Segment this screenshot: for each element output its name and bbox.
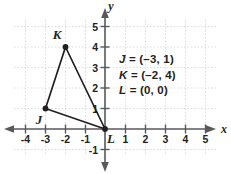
y-tick-label: -1 — [89, 144, 98, 156]
legend-row-j: J = (–3, 1) — [119, 52, 176, 68]
point-j — [43, 106, 49, 112]
x-tick-label: 2 — [143, 133, 149, 145]
y-tick-label: 3 — [92, 62, 98, 74]
coordinate-legend: J = (–3, 1) K = (–2, 4) L = (0, 0) — [119, 52, 176, 99]
x-tick-label: -2 — [61, 133, 70, 145]
x-tick-label: -4 — [21, 133, 30, 145]
x-tick-label: 3 — [163, 133, 169, 145]
figure-canvas: -4 -3 -2 -1 1 2 3 4 5 5 4 3 2 1 -1 x y J — [0, 0, 231, 174]
point-label-l: L — [106, 131, 115, 146]
legend-eq-j: = (–3, 1) — [129, 53, 174, 65]
axis-arrowheads — [4, 8, 216, 172]
legend-row-k: K = (–2, 4) — [119, 68, 176, 84]
coordinate-plane-graph: -4 -3 -2 -1 1 2 3 4 5 5 4 3 2 1 -1 x y J — [0, 0, 231, 174]
x-tick-label: -3 — [41, 133, 50, 145]
legend-var-l: L — [119, 84, 126, 96]
legend-eq-l: = (0, 0) — [130, 84, 168, 96]
point-k — [63, 44, 69, 50]
point-label-j: J — [35, 112, 43, 127]
x-tick-label: 1 — [123, 133, 129, 145]
legend-row-l: L = (0, 0) — [119, 83, 176, 99]
x-axis-label: x — [220, 122, 227, 136]
legend-var-j: J — [119, 53, 126, 65]
x-axis-arrow-left — [4, 125, 14, 133]
x-axis-arrow-right — [206, 125, 216, 133]
y-tick-label: 2 — [92, 82, 98, 94]
y-axis-arrow-down — [101, 162, 109, 172]
x-tick-label: 4 — [183, 133, 189, 145]
y-tick-label: 5 — [92, 21, 98, 33]
legend-eq-k: = (–2, 4) — [131, 69, 176, 81]
y-tick-label: 4 — [92, 41, 98, 53]
legend-var-k: K — [119, 69, 128, 81]
y-axis-label: y — [106, 0, 114, 13]
x-tick-label: 5 — [203, 133, 209, 145]
point-label-k: K — [52, 27, 63, 42]
